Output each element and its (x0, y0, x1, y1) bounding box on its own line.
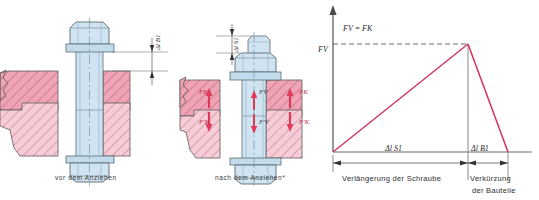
caption-after-tightening: nach dem Anziehen* (215, 174, 285, 181)
dim-label-delta-l-b1: Δl B1 (146, 34, 164, 50)
lower-part-right (103, 103, 130, 156)
panel-before-tightening: Δl B1 vor dem Anziehen (0, 0, 180, 200)
force-label-fv-prime-center: F'V (259, 118, 269, 126)
washer-bottom-2 (230, 158, 281, 165)
chart-xlabel-right-line2: der Bauteile (472, 186, 516, 195)
chart-xlabel-right-line1: Verkürzung (470, 174, 511, 183)
dim2-arrow-down (230, 53, 234, 60)
chart-series-bolt-line (333, 44, 468, 152)
dim-arrow-down (150, 71, 154, 78)
chart-y-axis-arrow (329, 5, 336, 15)
dim-label-delta-l-s1: Δl S1 (224, 37, 242, 52)
washer-bottom (66, 156, 114, 163)
chart-dim-label-delta-l-b1: Δl B1 (471, 137, 489, 155)
bolt-hex-head-2 (235, 53, 276, 72)
lower-part-right-2 (266, 110, 302, 158)
chart-dim-label-delta-l-s1: Δl S1 (385, 137, 402, 155)
washer-top-2 (230, 72, 281, 80)
panel-chart: FV = FK FV Δl S1 Δl B1 Verlängerung der … (320, 0, 539, 200)
after-tightening-drawing (180, 0, 322, 200)
force-label-fv-center: FV (259, 88, 268, 96)
chart-dim-arrow-b1-left (468, 160, 476, 165)
caption-before-tightening: vor dem Anziehen (55, 174, 117, 181)
washer-top (66, 44, 114, 52)
chart-xlabel-left: Verlängerung der Schraube (342, 174, 441, 183)
chart-series-parts-line (468, 44, 508, 152)
chart-dim-arrow-b1-right (500, 160, 508, 165)
lower-part-left (0, 103, 58, 156)
chart-annotation-fv-equals-fk: FV = FK (343, 17, 372, 35)
force-label-fk-prime-right: F'K (299, 118, 309, 126)
panel-after-tightening: Δl S1 FK F'K FV F'V FK F'K nach dem Anzi… (180, 0, 320, 200)
before-tightening-drawing (0, 0, 180, 200)
dim2-arrow-up (230, 29, 234, 36)
force-label-fk-right: FK (299, 88, 308, 96)
figure-root: Δl B1 vor dem Anziehen (0, 0, 539, 200)
force-label-fk-left: FK (199, 88, 208, 96)
chart-dim-arrow-s1-right (460, 160, 468, 165)
chart-dim-arrow-s1-left (333, 160, 341, 165)
force-label-fk-prime-left: F'K (199, 118, 209, 126)
chart-ytick-label-fv: FV (318, 38, 328, 56)
